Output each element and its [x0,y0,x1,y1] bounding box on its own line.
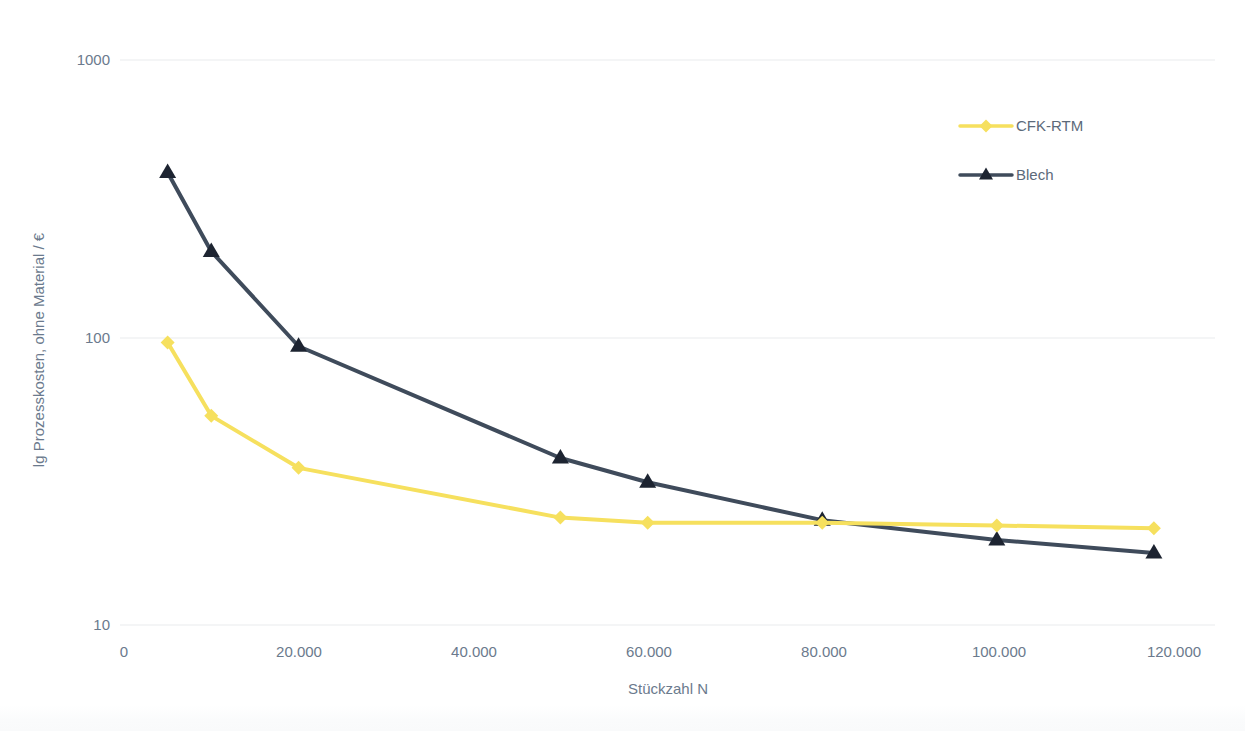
series-line-cfk-rtm [168,343,1154,529]
x-tick-label-40000: 40.000 [451,643,497,660]
legend-label-blech: Blech [1016,166,1054,183]
series-markers-blech [159,163,1162,558]
x-axis-tick-labels: 0 20.000 40.000 60.000 80.000 100.000 12… [120,643,1201,660]
x-tick-label-60000: 60.000 [626,643,672,660]
legend-item-cfk-rtm[interactable]: CFK-RTM [960,117,1083,134]
chart-legend: CFK-RTM Blech [960,117,1083,183]
y-tick-label-10: 10 [93,616,110,633]
series-line-blech [168,172,1154,552]
legend-marker-diamond-icon [980,120,993,133]
y-tick-label-100: 100 [85,329,110,346]
gridlines [120,60,1215,625]
x-tick-label-120000: 120.000 [1147,643,1201,660]
y-axis-title: lg Prozesskosten, ohne Material / € [30,232,47,467]
line-chart: 1000 100 10 0 20.000 40.000 60.000 80.00… [0,0,1245,731]
data-point-marker-diamond [990,519,1004,533]
x-tick-label-20000: 20.000 [276,643,322,660]
x-tick-label-80000: 80.000 [801,643,847,660]
data-point-marker-diamond [553,511,567,525]
y-axis-tick-labels: 1000 100 10 [77,51,110,633]
series-cfk-rtm [161,336,1161,536]
data-point-marker-diamond [1147,521,1161,535]
legend-item-blech[interactable]: Blech [960,166,1054,183]
x-tick-label-100000: 100.000 [972,643,1026,660]
chart-container: 1000 100 10 0 20.000 40.000 60.000 80.00… [0,0,1245,731]
series-blech [159,163,1162,558]
data-point-marker-diamond [641,516,655,530]
data-point-marker-triangle [159,163,176,178]
series-markers-cfk-rtm [161,336,1161,536]
x-axis-title: Stückzahl N [628,680,708,697]
legend-label-cfk-rtm: CFK-RTM [1016,117,1083,134]
y-tick-label-1000: 1000 [77,51,110,68]
x-tick-label-0: 0 [120,643,128,660]
